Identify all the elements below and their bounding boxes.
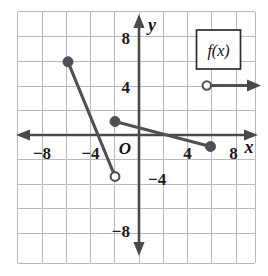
- legend-ray-arrow: [247, 80, 261, 92]
- origin-label: O: [119, 139, 131, 158]
- graph-canvas: f(x) −8 −4 4 8 8 4 −4 −8 O x y: [0, 0, 268, 276]
- y-tick-label-neg4: −4: [148, 170, 167, 189]
- legend: f(x): [197, 30, 262, 92]
- shallow-segment-closed-endpoint-right: [206, 142, 216, 152]
- steep-segment-open-endpoint: [111, 172, 120, 181]
- coordinate-graph-figure: f(x) −8 −4 4 8 8 4 −4 −8 O x y: [0, 0, 268, 276]
- steep-segment-closed-endpoint: [63, 57, 73, 67]
- y-tick-label-neg8: −8: [112, 222, 130, 241]
- y-axis-arrow-up: [133, 14, 144, 28]
- y-tick-label-4: 4: [122, 78, 131, 97]
- legend-ray-open-circle: [203, 81, 211, 89]
- x-tick-label-4: 4: [183, 144, 192, 163]
- legend-label: f(x): [207, 42, 229, 60]
- y-axis-arrow-down: [133, 242, 144, 256]
- shallow-segment-closed-endpoint-left: [110, 117, 120, 127]
- x-tick-label-neg4: −4: [81, 144, 100, 163]
- x-axis: [16, 129, 258, 140]
- x-axis-label: x: [244, 137, 254, 157]
- x-tick-label-neg8: −8: [33, 144, 51, 163]
- y-axis-label: y: [146, 15, 157, 35]
- y-tick-label-8: 8: [122, 29, 131, 48]
- x-tick-label-8: 8: [229, 144, 238, 163]
